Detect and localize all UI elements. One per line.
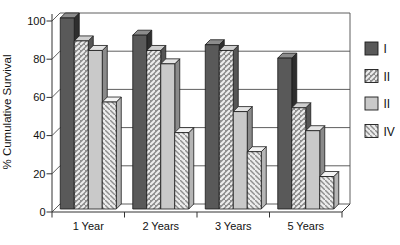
legend-swatch — [365, 42, 378, 55]
bar-front-face — [219, 50, 233, 209]
x-category-label-2-years: 2 Years — [142, 220, 179, 232]
bar-front-face — [133, 35, 147, 209]
y-tick-label-80: 80 — [33, 53, 45, 65]
y-axis-title: % Cumulative Survival — [1, 54, 13, 169]
legend-swatch — [365, 70, 378, 83]
bars-group-3-years — [205, 40, 266, 209]
bar-iv-5-years — [320, 172, 339, 209]
bar-front-face — [147, 50, 161, 209]
gridline-depth-60 — [52, 89, 60, 97]
bars-group-5-years — [278, 53, 339, 209]
bar-front-face — [161, 64, 175, 209]
legend-item-ii-2: II — [365, 97, 390, 111]
bar-front-face — [233, 112, 247, 209]
y-tick-label-40: 40 — [33, 129, 45, 141]
survival-chart-figure: % Cumulative Survival 0204060801001 Year… — [0, 0, 400, 245]
bar-front-face — [306, 131, 320, 209]
bar-front-face — [102, 102, 116, 209]
bar-iv-1-year — [102, 97, 121, 209]
bar-front-face — [60, 18, 74, 209]
bar-side-face — [261, 147, 266, 209]
bar-front-face — [88, 50, 102, 209]
gridline-depth-100 — [52, 13, 60, 21]
bar-iv-2-years — [175, 128, 194, 209]
gridline-depth-40 — [52, 128, 60, 136]
legend: IIIIIIV — [365, 42, 395, 139]
legend-item-i-0: I — [365, 42, 387, 56]
x-category-label-3-years: 3 Years — [215, 220, 252, 232]
y-tick-label-0: 0 — [39, 206, 45, 218]
legend-label: II — [384, 70, 391, 84]
gridline-depth-0 — [52, 204, 60, 212]
bar-side-face — [334, 172, 339, 209]
bars-group-1-year — [60, 13, 121, 209]
gridline-depth-20 — [52, 166, 60, 174]
bar-side-face — [116, 97, 121, 209]
legend-item-ii-1: II — [365, 70, 390, 84]
bar-side-face — [189, 128, 194, 209]
legend-swatch — [365, 125, 378, 138]
y-tick-label-100: 100 — [27, 15, 45, 27]
bar-front-face — [320, 177, 334, 209]
bar-front-face — [74, 41, 88, 209]
legend-label: II — [384, 97, 391, 111]
bar-front-face — [175, 133, 189, 209]
bar-front-face — [278, 58, 292, 209]
bar-front-face — [292, 108, 306, 209]
floor-right-edge — [342, 204, 350, 212]
x-category-label-1-year: 1 Year — [73, 220, 105, 232]
x-category-label-5-years: 5 Years — [287, 220, 324, 232]
legend-item-iv-3: IV — [365, 125, 395, 139]
bar-iv-3-years — [247, 147, 266, 209]
legend-swatch — [365, 97, 378, 110]
y-tick-label-60: 60 — [33, 91, 45, 103]
bars-group-2-years — [133, 30, 194, 209]
chart-canvas: % Cumulative Survival 0204060801001 Year… — [0, 0, 400, 245]
bars — [60, 13, 339, 209]
y-tick-label-20: 20 — [33, 168, 45, 180]
bar-front-face — [247, 152, 261, 209]
legend-label: I — [384, 42, 387, 56]
legend-label: IV — [384, 125, 395, 139]
gridline-depth-80 — [52, 51, 60, 59]
bar-front-face — [205, 45, 219, 209]
